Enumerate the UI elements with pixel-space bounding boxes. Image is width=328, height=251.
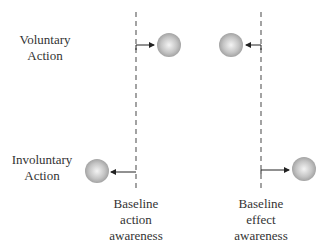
involuntary-effect-ball xyxy=(292,157,316,181)
label-line: awareness xyxy=(96,228,176,244)
voluntary-action-arrow xyxy=(136,45,154,50)
voluntary-action-label: Voluntary Action xyxy=(5,32,85,64)
baseline-action-awareness-label: Baseline action awareness xyxy=(96,196,176,244)
label-line: Action xyxy=(5,48,85,64)
involuntary-effect-arrow xyxy=(261,170,289,174)
label-line: Baseline xyxy=(221,196,301,212)
involuntary-action-label: Involuntary Action xyxy=(2,152,82,184)
label-line: awareness xyxy=(221,228,301,244)
voluntary-action-ball xyxy=(157,33,181,57)
involuntary-action-ball xyxy=(85,159,109,183)
label-line: Involuntary xyxy=(2,152,82,168)
baseline-effect-awareness-label: Baseline effect awareness xyxy=(221,196,301,244)
label-line: Baseline xyxy=(96,196,176,212)
voluntary-effect-arrow xyxy=(246,45,261,50)
label-line: Voluntary xyxy=(5,32,85,48)
label-line: effect xyxy=(221,212,301,228)
label-line: Action xyxy=(2,168,82,184)
voluntary-effect-ball xyxy=(219,33,243,57)
label-line: action xyxy=(96,212,176,228)
